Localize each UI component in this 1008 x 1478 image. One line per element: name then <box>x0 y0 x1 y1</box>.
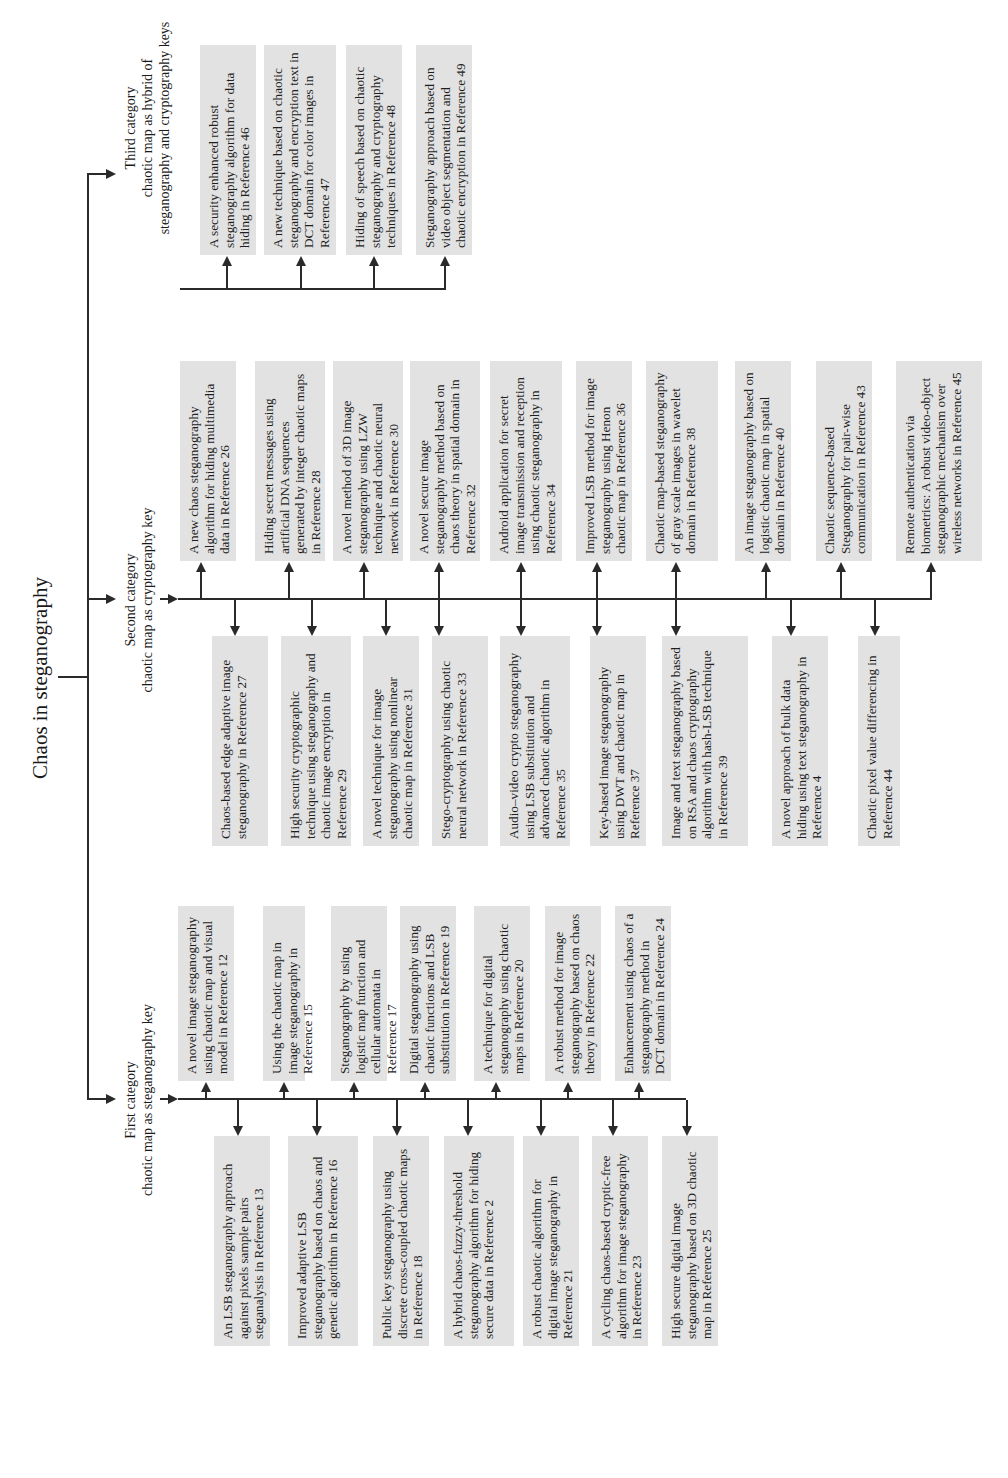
second-right-box-4: A novel secure image steganography metho… <box>410 361 480 561</box>
second-left-box-6: Key-based image steganography using DWT … <box>590 636 646 846</box>
second-right-box-7: Chaotic map-based steganography of gray … <box>646 361 718 561</box>
third-category-title: Third category <box>122 0 139 288</box>
third-right-box-4: Steganography approach based on video ob… <box>416 45 472 255</box>
branch-line <box>790 600 792 628</box>
second-spine-arrow-icon <box>168 594 178 604</box>
branch-line <box>596 600 598 628</box>
second-right-box-10: Remote authentication via biometrics: A … <box>896 361 982 561</box>
second-right-box-3: A novel method of 3D image steganography… <box>333 361 403 561</box>
branch-arrow-icon <box>434 626 444 636</box>
branch-line <box>438 600 440 628</box>
branch-arrow-icon <box>608 1126 618 1136</box>
branch-line <box>396 1100 398 1128</box>
branch-line <box>234 600 236 628</box>
second-right-box-8: An image steganography based on logistic… <box>735 361 791 561</box>
branch-arrow-icon <box>420 1082 430 1092</box>
second-left-box-8: A novel approach of bulk data hiding usi… <box>772 636 828 846</box>
branch-line <box>300 264 302 290</box>
third-right-box-1: A security enhanced robust steganography… <box>200 45 256 255</box>
root-connector <box>58 676 87 678</box>
first-right-box-4: Digital steganography using chaotic func… <box>400 906 456 1081</box>
third-right-box-2: A new technique based on chaotic stegano… <box>264 45 336 255</box>
branch-arrow-icon <box>196 562 206 572</box>
branch-arrow-icon <box>671 562 681 572</box>
second-right-box-5: Android application for secret image tra… <box>490 361 562 561</box>
branch-line <box>520 570 522 600</box>
branch-arrow-icon <box>296 256 306 266</box>
diagram-title: Chaos in steganography <box>26 458 54 898</box>
branch-arrow-icon <box>369 256 379 266</box>
third-category-arrow-icon <box>106 169 116 179</box>
first-right-box-2: Using the chaotic map in image steganogr… <box>263 906 305 1081</box>
branch-arrow-icon <box>671 626 681 636</box>
second-left-box-4: Stego-cryptography using chaotic neural … <box>432 636 488 846</box>
first-spine <box>178 1098 686 1100</box>
branch-arrow-icon <box>682 1126 692 1136</box>
branch-arrow-icon <box>463 1126 473 1136</box>
category-bar <box>87 174 89 1100</box>
first-right-box-5: A technique for digital steganography us… <box>474 906 530 1081</box>
branch-arrow-icon <box>312 1126 322 1136</box>
second-left-box-5: Audio–video crypto steganography using L… <box>500 636 570 846</box>
branch-line <box>288 570 290 600</box>
branch-line <box>200 570 202 600</box>
first-left-box-7: High secure digital image steganography … <box>662 1136 718 1346</box>
branch-line <box>385 600 387 628</box>
branch-line <box>765 570 767 600</box>
second-right-box-1: A new chaos steganography algorithm for … <box>180 361 236 561</box>
branch-arrow-icon <box>440 256 450 266</box>
branch-arrow-icon <box>233 1126 243 1136</box>
branch-line <box>612 1100 614 1128</box>
first-left-box-6: A cycling chaos-based cryptic-free algor… <box>592 1136 648 1346</box>
branch-arrow-icon <box>761 562 771 572</box>
branch-arrow-icon <box>349 1082 359 1092</box>
branch-arrow-icon <box>201 1082 211 1092</box>
third-right-box-3: Hiding of speech based on chaotic stegan… <box>346 45 402 255</box>
branch-arrow-icon <box>434 562 444 572</box>
branch-line <box>540 1100 542 1128</box>
branch-line <box>444 264 446 290</box>
second-right-box-2: Hiding secret messages using artificial … <box>255 361 325 561</box>
second-left-box-2: High security cryptographic technique us… <box>281 636 351 846</box>
first-right-box-3: Steganography by using logistic map func… <box>331 906 387 1081</box>
first-left-box-3: Public key steganography using discrete … <box>373 1136 429 1346</box>
second-category-subtitle: chaotic map as cryptography key <box>139 440 156 760</box>
branch-arrow-icon <box>381 626 391 636</box>
branch-arrow-icon <box>279 1082 289 1092</box>
second-left-box-7: Image and text steganography based on RS… <box>662 636 748 846</box>
branch-line <box>675 600 677 628</box>
branch-arrow-icon <box>592 626 602 636</box>
branch-line <box>311 600 313 628</box>
first-left-box-2: Improved adaptive LSB steganography base… <box>288 1136 358 1346</box>
second-left-box-9: Chaotic pixel value differencing in Refe… <box>858 636 900 846</box>
second-category-arrow-icon <box>106 594 116 604</box>
first-category-label: First category chaotic map as steganogra… <box>122 940 156 1260</box>
branch-arrow-icon <box>926 562 936 572</box>
branch-arrow-icon <box>516 562 526 572</box>
branch-line <box>840 570 842 600</box>
branch-line <box>438 570 440 600</box>
branch-arrow-icon <box>536 1126 546 1136</box>
branch-arrow-icon <box>563 1082 573 1092</box>
branch-line <box>596 570 598 600</box>
first-category-title: First category <box>122 940 139 1260</box>
first-category-arrow-icon <box>106 1094 116 1104</box>
first-left-box-4: A hybrid chaos-fuzzy-threshold steganogr… <box>444 1136 514 1346</box>
second-left-box-3: A novel technique for image steganograph… <box>363 636 419 846</box>
diagram-canvas: Chaos in steganography First category ch… <box>0 0 1008 1478</box>
branch-line <box>316 1100 318 1128</box>
branch-line <box>363 570 365 600</box>
third-spine <box>180 288 445 290</box>
first-left-box-1: An LSB steganography approach against pi… <box>214 1136 270 1346</box>
branch-arrow-icon <box>284 562 294 572</box>
branch-line <box>874 600 876 628</box>
second-left-box-1: Chaos-based edge adaptive image steganog… <box>212 636 268 846</box>
branch-line <box>373 264 375 290</box>
first-spine-arrow-icon <box>168 1094 178 1104</box>
first-right-box-1: A novel image steganography using chaoti… <box>178 906 234 1081</box>
first-category-subtitle: chaotic map as steganography key <box>139 940 156 1260</box>
branch-line <box>675 570 677 600</box>
branch-arrow-icon <box>222 256 232 266</box>
first-left-box-5: A robust chaotic algorithm for digital i… <box>523 1136 579 1346</box>
branch-line <box>467 1100 469 1128</box>
